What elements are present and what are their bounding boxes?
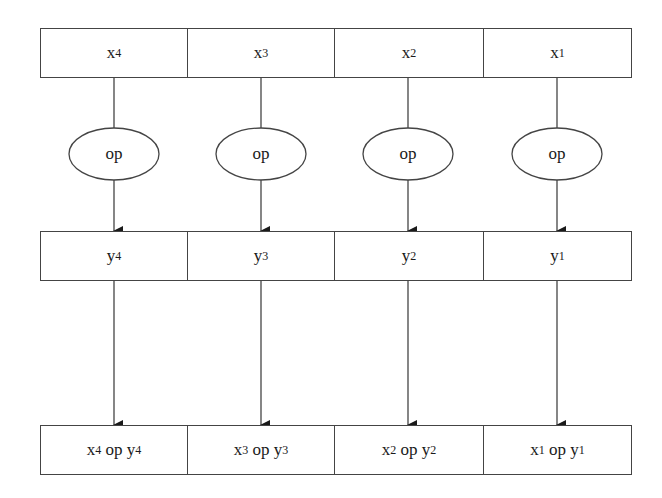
y2-label: y xyxy=(402,246,411,266)
y3-cell: y3 xyxy=(188,232,335,280)
x2-label: x xyxy=(402,43,411,63)
x1-cell: x1 xyxy=(484,29,631,77)
op-label-1: op xyxy=(69,128,159,180)
result-2-op: op xyxy=(396,440,422,460)
y4-cell: y4 xyxy=(41,232,188,280)
y-vector-row: y4 y3 y2 y1 xyxy=(40,231,632,281)
result-4-op: op xyxy=(101,440,127,460)
x3-cell: x3 xyxy=(188,29,335,77)
op-label-3: op xyxy=(363,128,453,180)
result-3-cell: x3 op y3 xyxy=(188,426,335,474)
op-label-4: op xyxy=(512,128,602,180)
result-2-x: x xyxy=(382,440,391,460)
x3-label: x xyxy=(254,43,263,63)
result-1-op: op xyxy=(545,440,571,460)
result-2-y: y xyxy=(422,440,431,460)
y1-cell: y1 xyxy=(484,232,631,280)
result-3-op: op xyxy=(248,440,274,460)
result-3-y: y xyxy=(274,440,283,460)
result-2-cell: x2 op y2 xyxy=(335,426,484,474)
result-4-x: x xyxy=(87,440,96,460)
result-4-y: y xyxy=(127,440,136,460)
op-label-2: op xyxy=(216,128,306,180)
y3-label: y xyxy=(254,246,263,266)
result-4-cell: x4 op y4 xyxy=(41,426,188,474)
result-1-x: x xyxy=(530,440,539,460)
result-vector-row: x4 op y4 x3 op y3 x2 op y2 x1 op y1 xyxy=(40,425,632,475)
y2-cell: y2 xyxy=(335,232,484,280)
x1-label: x xyxy=(550,43,559,63)
result-1-cell: x1 op y1 xyxy=(484,426,631,474)
x4-cell: x4 xyxy=(41,29,188,77)
y4-label: y xyxy=(107,246,116,266)
result-3-x: x xyxy=(234,440,243,460)
y1-label: y xyxy=(550,246,559,266)
result-1-y: y xyxy=(570,440,579,460)
x-vector-row: x4 x3 x2 x1 xyxy=(40,28,632,78)
x2-cell: x2 xyxy=(335,29,484,77)
x4-label: x xyxy=(107,43,116,63)
